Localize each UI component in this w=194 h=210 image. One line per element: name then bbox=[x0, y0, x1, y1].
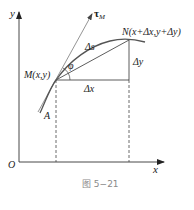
x-axis-label: x bbox=[153, 164, 158, 175]
arc-label: Δs bbox=[85, 42, 95, 52]
tangent-line bbox=[38, 14, 92, 112]
figure-caption: 图 5−21 bbox=[82, 180, 119, 189]
y-axis-label: y bbox=[10, 8, 15, 19]
point-a-label: A bbox=[44, 111, 50, 121]
arc-length-diagram: y O x τM Δs N(x+Δx,y+Δy) M(x,y) φ Δy Δx … bbox=[0, 0, 194, 210]
tangent-label: τM bbox=[94, 8, 105, 21]
origin-label: O bbox=[8, 160, 15, 170]
point-n-label: N(x+Δx,y+Δy) bbox=[122, 27, 181, 37]
delta-x-label: Δx bbox=[84, 84, 94, 94]
delta-y-label: Δy bbox=[133, 57, 143, 67]
point-m-label: M(x,y) bbox=[24, 70, 50, 80]
angle-label: φ bbox=[68, 61, 74, 71]
tangent-subscript: M bbox=[99, 13, 105, 21]
